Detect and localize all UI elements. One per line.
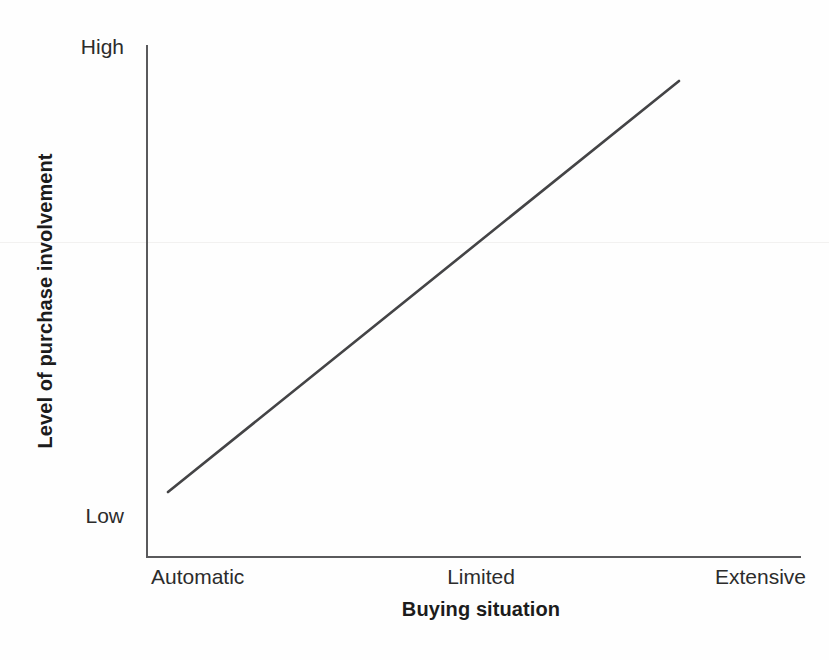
chart-figure: High Low Level of purchase involvement A… [0, 0, 829, 660]
data-line-purchase-involvement [168, 81, 679, 492]
x-tick-label-extensive: Extensive [715, 566, 806, 587]
y-tick-label-low: Low [85, 505, 124, 526]
y-axis-title: Level of purchase involvement [34, 153, 57, 448]
x-axis-title: Buying situation [402, 598, 560, 621]
plot-area [0, 0, 829, 660]
x-tick-label-limited: Limited [447, 566, 515, 587]
x-tick-label-automatic: Automatic [151, 566, 244, 587]
y-tick-label-high: High [81, 36, 124, 57]
